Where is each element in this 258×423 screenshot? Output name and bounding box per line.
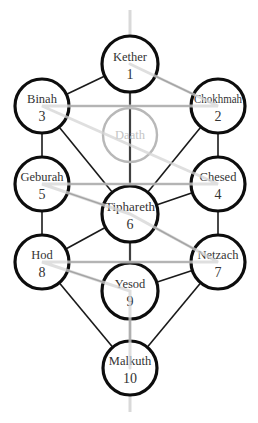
chesed-number: 4 [215, 187, 222, 202]
hod-name: Hod [31, 248, 53, 262]
kether-name: Kether [113, 50, 148, 64]
tree-of-life-diagram: Daath Kether1Chokhmah2Binah3Chesed4Gebur… [0, 0, 258, 423]
malkuth-number: 10 [123, 371, 137, 386]
kether-number: 1 [127, 67, 134, 82]
chokhmah-number: 2 [215, 109, 222, 124]
netzach-number: 7 [215, 265, 222, 280]
binah-name: Binah [27, 92, 58, 106]
geburah-name: Geburah [20, 170, 64, 184]
geburah-number: 5 [39, 187, 46, 202]
tiphareth-number: 6 [127, 217, 134, 232]
binah-number: 3 [39, 109, 46, 124]
hod-number: 8 [39, 265, 46, 280]
